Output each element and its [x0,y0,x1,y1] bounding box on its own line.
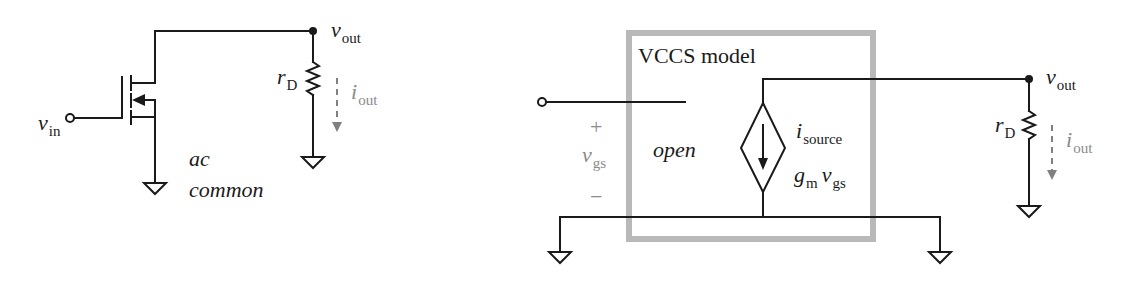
ground-icon [144,183,166,194]
gm-vgs-label: gmvgs [794,162,846,191]
current-arrowhead-icon [332,122,342,132]
iout-label: iout [351,79,378,108]
input-terminal-icon [66,114,74,122]
vin-label: vin [38,110,61,139]
resistor-icon [1023,111,1035,139]
model-box-title: VCCS model [638,43,756,68]
resistor-icon [307,62,319,95]
vout-label: vout [331,17,362,46]
vccs-model-circuit: VCCS model + vgs − open isource gmvgs vo… [538,33,1093,263]
open-label: open [653,137,696,162]
mosfet-icon [131,76,155,124]
ground-icon [929,252,951,263]
minus-sign: − [590,184,602,209]
ac-label: ac [189,146,210,171]
plus-sign: + [590,114,602,139]
vgs-label: vgs [582,142,606,171]
ground-icon [1018,206,1040,217]
common-label: common [189,177,264,202]
rd-label: rD [277,64,298,93]
circuit-diagram: vin vout rD iout ac common VCCS model + … [0,0,1129,291]
ground-icon [549,252,571,263]
vout-label: vout [1046,64,1077,93]
mosfet-circuit: vin vout rD iout ac common [38,17,378,202]
iout-label: iout [1066,127,1093,156]
body-arrow-icon [132,94,145,106]
rd-label: rD [995,112,1016,141]
input-terminal-icon [538,98,546,106]
ground-icon [302,157,324,168]
isource-label: isource [796,118,843,147]
current-arrowhead-icon [1047,170,1057,180]
